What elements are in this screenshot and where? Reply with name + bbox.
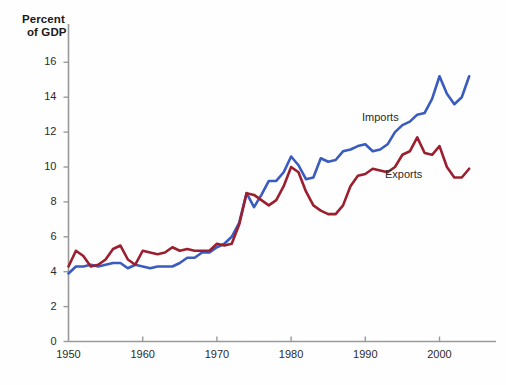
series-label-imports: Imports: [362, 111, 399, 123]
y-axis-tick-label: 16: [35, 55, 57, 67]
y-axis-tick-label: 4: [35, 265, 57, 277]
series-label-exports: Exports: [385, 168, 422, 180]
x-axis-tick-label: 2000: [420, 348, 460, 360]
y-axis-tick-label: 10: [35, 160, 57, 172]
y-axis-tick-label: 2: [35, 300, 57, 312]
y-axis-tick-label: 0: [35, 335, 57, 347]
chart-plot-area: [0, 0, 506, 385]
y-axis-tick-label: 8: [35, 195, 57, 207]
y-axis-tick-label: 12: [35, 125, 57, 137]
x-axis-tick-label: 1990: [345, 348, 385, 360]
chart-axes: [69, 24, 497, 342]
y-axis-tick-label: 6: [35, 230, 57, 242]
x-axis-tick-label: 1950: [49, 348, 89, 360]
x-axis-tick-label: 1970: [197, 348, 237, 360]
series-line-exports: [69, 137, 470, 266]
chart-figure: Percent of GDP 0246810121416 19501960197…: [0, 0, 506, 385]
x-axis-tick-label: 1960: [123, 348, 163, 360]
x-axis-tick-label: 1980: [271, 348, 311, 360]
y-axis-tick-label: 14: [35, 90, 57, 102]
